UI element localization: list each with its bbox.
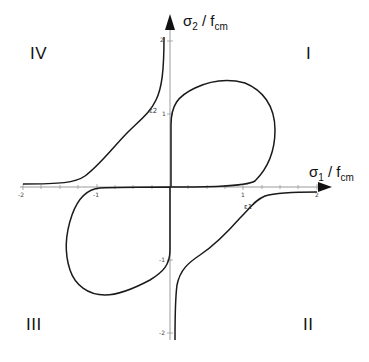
x-tick-label: -2 — [18, 191, 24, 198]
y-tick-label: -1 — [159, 256, 165, 263]
x-axis-label: σ1 / fcm — [309, 163, 354, 183]
curve-quadrant-1-loop — [171, 81, 275, 187]
y-label-sigma: σ — [183, 12, 192, 29]
curve-quadrant-3-loop — [66, 187, 170, 295]
x-label-divisor-subscript: cm — [341, 172, 354, 183]
x-tick-label: 2 — [315, 191, 319, 198]
x-label-divisor: / f — [324, 163, 341, 180]
quadrant-label-3: III — [26, 315, 42, 335]
x-tick-label: 1 — [241, 191, 245, 198]
y-label-divisor: / f — [198, 12, 215, 29]
y-axis-arrow-icon — [165, 14, 175, 30]
strain-label-e1: ε1 — [244, 203, 252, 211]
y-tick-label: 2 — [160, 36, 164, 43]
y-axis-label: σ2 / fcm — [183, 12, 228, 32]
x-label-sigma: σ — [309, 163, 318, 180]
quadrant-label-2: II — [303, 315, 313, 335]
x-tick-label: -1 — [93, 191, 99, 198]
y-tick-label: 1 — [162, 110, 166, 117]
y-label-divisor-subscript: cm — [215, 21, 228, 32]
y-tick-label: -2 — [159, 329, 165, 336]
quadrant-label-4: IV — [30, 44, 47, 64]
curve-quadrant-2 — [175, 192, 317, 340]
x-axis-arrow-icon — [318, 182, 332, 192]
quadrant-label-1: I — [306, 44, 311, 64]
strain-label-e2: ε2 — [149, 107, 157, 115]
